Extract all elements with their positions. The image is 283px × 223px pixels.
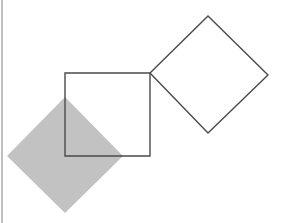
left-edge-strip <box>1 0 3 223</box>
figure-canvas <box>0 0 283 223</box>
shapes-svg <box>0 0 283 223</box>
